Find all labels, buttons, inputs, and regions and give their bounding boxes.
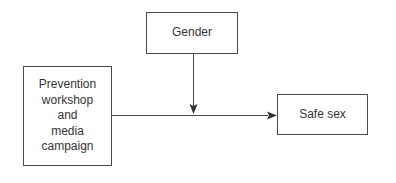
diagram-canvas: Gender Prevention workshop and media cam… bbox=[0, 0, 396, 183]
node-safe-sex-label: Safe sex bbox=[299, 107, 346, 123]
node-prevention-line-4: media bbox=[39, 124, 96, 140]
node-prevention-line-1: Prevention bbox=[39, 77, 96, 93]
node-prevention-line-5: campaign bbox=[39, 139, 96, 155]
node-prevention-line-2: workshop bbox=[39, 93, 96, 109]
node-gender-text: Gender bbox=[172, 25, 212, 41]
node-prevention-line-3: and bbox=[39, 108, 96, 124]
node-prevention-label: Prevention workshop and media campaign bbox=[39, 77, 96, 155]
node-safe-sex: Safe sex bbox=[277, 94, 368, 135]
node-gender-label: Gender bbox=[172, 25, 212, 41]
node-safe-sex-text: Safe sex bbox=[299, 107, 346, 123]
node-gender: Gender bbox=[146, 12, 238, 54]
arrowhead-right-icon bbox=[267, 112, 277, 120]
node-prevention: Prevention workshop and media campaign bbox=[23, 66, 112, 166]
